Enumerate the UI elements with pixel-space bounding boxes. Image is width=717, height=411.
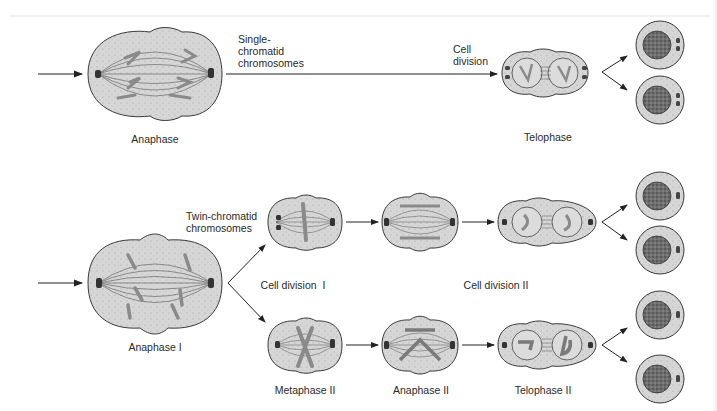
label-cell-division-ii: Cell division II	[464, 279, 529, 291]
daughter-cell	[636, 76, 684, 124]
label-anaphase-ii: Anaphase II	[393, 384, 449, 396]
metaphase-ii-cell-upper	[268, 195, 342, 250]
label-cell-division: Cell division	[453, 43, 488, 67]
label-telophase: Telophase	[524, 131, 572, 143]
cell-division-diagram	[0, 0, 717, 411]
anaphase-ii-cell-lower	[382, 316, 458, 374]
mitosis-row	[38, 21, 684, 124]
telophase-cell	[502, 49, 588, 97]
telophase-ii-cell-lower	[498, 321, 596, 369]
telophase-ii-cell-upper	[498, 198, 596, 246]
label-metaphase-ii: Metaphase II	[275, 384, 336, 396]
daughter-cell	[636, 172, 684, 220]
label-twin-chromatid: Twin-chromatid chromosomes	[186, 210, 257, 234]
label-telophase-ii: Telophase II	[515, 384, 572, 396]
anaphase-ii-cell-upper	[382, 193, 458, 251]
daughter-cell	[636, 21, 684, 69]
label-single-chromatid: Single- chromatid chromosomes	[238, 33, 304, 69]
label-anaphase: Anaphase	[131, 133, 178, 145]
page-edge-shadow	[713, 0, 717, 411]
metaphase-ii-cell-lower	[268, 318, 342, 373]
anaphase-i-cell	[88, 234, 222, 334]
daughter-cell	[636, 291, 684, 339]
meiosis-row	[38, 172, 684, 403]
label-cell-division-i: Cell division I	[261, 279, 326, 291]
anaphase-cell	[88, 28, 222, 121]
daughter-cell	[636, 226, 684, 274]
label-anaphase-i: Anaphase I	[128, 341, 181, 353]
daughter-cell	[636, 355, 684, 403]
